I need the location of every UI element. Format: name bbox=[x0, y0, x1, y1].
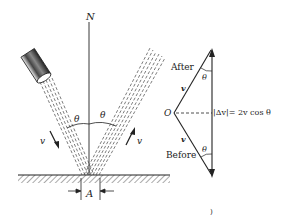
vector-label-before: v bbox=[181, 134, 186, 144]
delta-v-label: |Δv|= 2v cos θ bbox=[213, 108, 271, 117]
normal-label: N bbox=[85, 11, 96, 22]
incoming-stream bbox=[40, 78, 94, 175]
velocity-label-out: v bbox=[137, 136, 142, 146]
theta-before: θ bbox=[202, 145, 207, 154]
theta-after: θ bbox=[202, 73, 207, 82]
origin-label: O bbox=[164, 108, 172, 118]
vector-label-after: v bbox=[181, 83, 186, 93]
area-label: A bbox=[85, 188, 93, 199]
footer-mark: ) bbox=[210, 208, 213, 216]
velocity-label-in: v bbox=[40, 136, 45, 146]
outgoing-stream bbox=[84, 48, 165, 175]
surface bbox=[18, 175, 170, 183]
nozzle-icon bbox=[21, 48, 52, 84]
incoming-velocity-arrow: v bbox=[40, 131, 59, 149]
angle-label-right: θ bbox=[100, 110, 106, 120]
after-label: After bbox=[170, 62, 195, 72]
angle-label-left: θ bbox=[74, 114, 80, 124]
outgoing-velocity-arrow: v bbox=[126, 127, 142, 146]
before-label: Before bbox=[166, 150, 196, 160]
normal-line: N bbox=[85, 11, 96, 175]
momentum-reflection-diagram: N θ θ v v bbox=[0, 0, 281, 216]
